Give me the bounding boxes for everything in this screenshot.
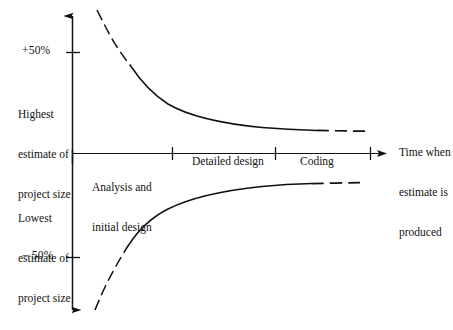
x-axis-phase-label-analysis-line1: Analysis and [92, 181, 152, 194]
lower-estimate-curve-solid [128, 184, 312, 246]
y-axis-title-lowest-line1: Lowest [18, 212, 71, 225]
x-axis-phase-label-detailed-design: Detailed design [192, 155, 264, 168]
y-axis-title-lowest-line3: project size [18, 292, 71, 305]
y-axis-title-highest-line1: Highest [18, 108, 71, 121]
y-axis-label-plus-50: +50% [22, 44, 50, 57]
y-axis-title-highest-line2: estimate of [18, 148, 71, 161]
y-axis-title-lowest: Lowest estimate of project size [18, 186, 71, 330]
x-axis-title-line2: estimate is [399, 186, 451, 199]
y-axis-title-lowest-line2: estimate of [18, 252, 71, 265]
x-axis-phase-label-analysis-line2: initial design [92, 221, 152, 234]
x-axis-phase-label-analysis: Analysis and initial design [92, 155, 152, 261]
x-axis-title: Time when estimate is produced [399, 120, 451, 265]
x-axis-title-line3: produced [399, 226, 451, 239]
lower-estimate-curve-dashed-tail [312, 183, 360, 184]
upper-estimate-curve-dashed-head [97, 10, 130, 65]
x-axis-phase-label-coding: Coding [300, 155, 334, 168]
upper-estimate-curve-dashed-tail [317, 130, 367, 131]
upper-estimate-curve-solid [130, 65, 317, 130]
x-axis-title-line1: Time when [399, 146, 451, 159]
cone-of-uncertainty-figure: +50% − 50% Highest estimate of project s… [0, 0, 453, 330]
